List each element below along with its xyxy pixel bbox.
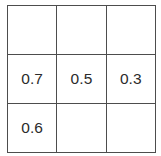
grid-cell-r0c1[interactable] <box>57 6 106 55</box>
grid-table-container: 0.7 0.5 0.3 0.6 <box>0 0 161 156</box>
table-row <box>8 6 156 55</box>
cell-value: 0.7 <box>8 71 56 87</box>
cell-value: 0.5 <box>57 71 105 87</box>
grid-cell-r2c1[interactable] <box>57 104 106 153</box>
grid-cell-r2c2[interactable] <box>106 104 155 153</box>
grid-cell-r0c2[interactable] <box>106 6 155 55</box>
value-grid-body: 0.7 0.5 0.3 0.6 <box>8 6 156 153</box>
value-grid-table: 0.7 0.5 0.3 0.6 <box>7 5 156 153</box>
table-row: 0.7 0.5 0.3 <box>8 55 156 104</box>
grid-cell-r1c0[interactable]: 0.7 <box>8 55 57 104</box>
grid-cell-r1c1[interactable]: 0.5 <box>57 55 106 104</box>
table-row: 0.6 <box>8 104 156 153</box>
grid-cell-r0c0[interactable] <box>8 6 57 55</box>
grid-cell-r1c2[interactable]: 0.3 <box>106 55 155 104</box>
cell-value: 0.6 <box>8 120 56 136</box>
grid-cell-r2c0[interactable]: 0.6 <box>8 104 57 153</box>
cell-value: 0.3 <box>107 71 155 87</box>
